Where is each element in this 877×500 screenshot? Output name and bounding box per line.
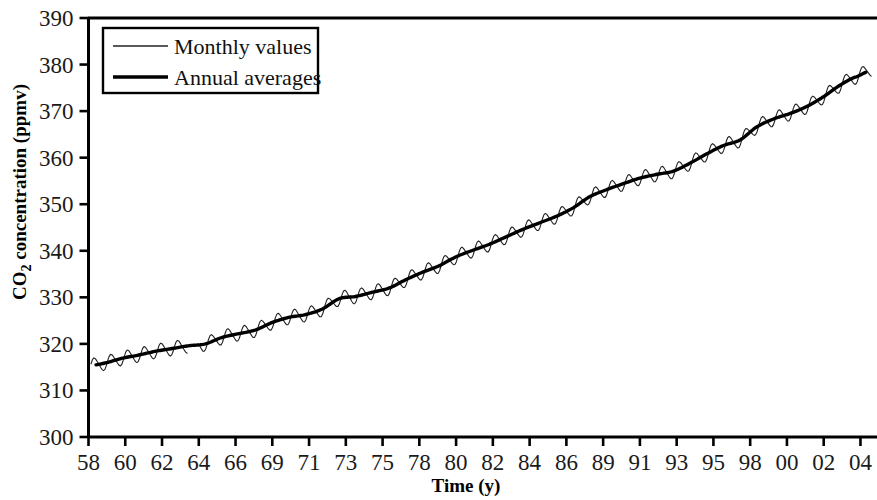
x-tick-label: 58 — [77, 450, 100, 475]
x-tick-label: 80 — [445, 450, 468, 475]
x-axis-ticks: 5860626466697173757880828486899193959800… — [77, 437, 872, 475]
x-tick-label: 86 — [555, 450, 578, 475]
x-tick-label: 78 — [408, 450, 431, 475]
y-axis-title-post: concentration (ppmv) — [9, 84, 31, 264]
y-tick-label: 360 — [39, 146, 74, 171]
x-tick-label: 84 — [518, 450, 542, 475]
y-tick-label: 350 — [39, 192, 74, 217]
x-axis-title: Time (y) — [432, 475, 501, 497]
x-tick-label: 04 — [849, 450, 873, 475]
y-axis-title-subscript: 2 — [19, 265, 34, 272]
chart-legend: Monthly values Annual averages — [103, 28, 321, 93]
y-tick-label: 320 — [39, 332, 74, 357]
x-tick-label: 93 — [665, 450, 688, 475]
x-tick-label: 71 — [298, 450, 321, 475]
co2-concentration-line-chart: 300310320330340350360370380390 586062646… — [0, 0, 877, 500]
y-tick-label: 300 — [39, 425, 74, 450]
y-tick-label: 340 — [39, 239, 74, 264]
series-annual-averages — [96, 72, 866, 365]
y-tick-label: 380 — [39, 53, 74, 78]
y-axis-ticks: 300310320330340350360370380390 — [39, 6, 89, 450]
legend-label-monthly-values: Monthly values — [174, 34, 312, 59]
x-tick-label: 98 — [739, 450, 762, 475]
x-tick-label: 60 — [114, 450, 137, 475]
chart-figure: 300310320330340350360370380390 586062646… — [0, 0, 877, 500]
x-tick-label: 91 — [628, 450, 651, 475]
series-monthly-values-segment-2 — [199, 67, 871, 352]
x-tick-label: 82 — [481, 450, 504, 475]
legend-label-annual-averages: Annual averages — [174, 65, 321, 90]
x-tick-label: 62 — [151, 450, 174, 475]
data-series-group — [91, 67, 871, 371]
y-tick-label: 330 — [39, 285, 74, 310]
x-tick-label: 95 — [702, 450, 725, 475]
x-tick-label: 64 — [187, 450, 211, 475]
y-axis-title-text: CO2 concentration (ppmv) — [9, 84, 34, 300]
y-axis-title-pre: CO — [9, 272, 30, 301]
y-tick-label: 390 — [39, 6, 74, 31]
y-axis-title: CO2 concentration (ppmv) — [9, 84, 34, 300]
x-tick-label: 89 — [592, 450, 615, 475]
x-tick-label: 73 — [334, 450, 357, 475]
x-tick-label: 66 — [224, 450, 247, 475]
x-tick-label: 00 — [775, 450, 798, 475]
y-tick-label: 310 — [39, 378, 74, 403]
x-tick-label: 69 — [261, 450, 284, 475]
y-tick-label: 370 — [39, 99, 74, 124]
x-tick-label: 75 — [371, 450, 394, 475]
x-tick-label: 02 — [812, 450, 835, 475]
